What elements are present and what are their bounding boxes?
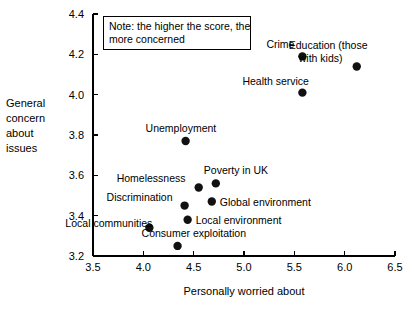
data-point: Poverty in UK xyxy=(204,164,268,187)
note-line: more concerned xyxy=(109,33,185,45)
note-line: Note: the higher the score, the xyxy=(109,20,250,32)
data-point-marker xyxy=(212,179,220,187)
data-point-marker xyxy=(195,183,203,191)
data-point: Local communities xyxy=(65,217,153,232)
data-point-marker xyxy=(181,137,189,145)
data-point: Education (thosewith kids) xyxy=(289,39,368,70)
data-point: Discrimination xyxy=(107,191,189,210)
data-point: Health service xyxy=(242,75,309,97)
y-axis-title: Generalconcernaboutissues xyxy=(6,97,45,154)
y-tick-label: 3.8 xyxy=(69,129,84,141)
data-point-label: Discrimination xyxy=(107,191,173,203)
x-axis-title: Personally worried about xyxy=(183,285,304,297)
data-point-marker xyxy=(208,197,216,205)
data-point-marker xyxy=(353,62,361,70)
data-point-label: Global environment xyxy=(220,196,311,208)
data-points: CrimeEducation (thosewith kids)Health se… xyxy=(65,38,367,250)
x-tick-label: 5.0 xyxy=(236,261,251,273)
y-tick-label: 3.2 xyxy=(69,250,84,262)
data-point: Homelessness xyxy=(117,172,203,191)
y-tick-label: 4.2 xyxy=(69,48,84,60)
data-point-label: Consumer exploitation xyxy=(142,227,247,239)
data-point-label: Unemployment xyxy=(146,122,217,134)
data-point: Unemployment xyxy=(146,122,217,145)
data-point-label: Poverty in UK xyxy=(204,164,268,176)
data-point-label: Homelessness xyxy=(117,172,186,184)
x-tick-label: 5.5 xyxy=(287,261,302,273)
plot-area: 3.54.04.55.05.56.06.53.23.43.63.84.04.24… xyxy=(0,0,414,309)
scatter-chart: 3.54.04.55.05.56.06.53.23.43.63.84.04.24… xyxy=(0,0,414,309)
y-axis-title-line: issues xyxy=(6,142,38,154)
x-tick-label: 6.0 xyxy=(337,261,352,273)
x-tick-label: 4.5 xyxy=(186,261,201,273)
x-tick-label: 4.0 xyxy=(136,261,151,273)
note-annotation: Note: the higher the score, themore conc… xyxy=(103,16,250,49)
data-point: Consumer exploitation xyxy=(142,227,247,250)
y-axis-title-line: concern xyxy=(6,112,45,124)
data-point-label: Local communities xyxy=(65,217,152,229)
data-point-marker xyxy=(183,216,191,224)
data-point-marker xyxy=(180,201,188,209)
x-axis-title-text: Personally worried about xyxy=(183,285,304,297)
data-point-label: Education (those xyxy=(289,39,368,51)
x-tick-label: 6.5 xyxy=(387,261,402,273)
data-point-label: Health service xyxy=(242,75,309,87)
y-tick-label: 4.0 xyxy=(69,89,84,101)
y-tick-label: 3.6 xyxy=(69,169,84,181)
data-point-label-line2: with kids) xyxy=(298,52,343,64)
data-point: Local environment xyxy=(183,214,281,226)
y-axis-title-line: about xyxy=(6,127,34,139)
y-tick-label: 4.4 xyxy=(69,8,84,20)
data-point-marker xyxy=(173,242,181,250)
data-point-marker xyxy=(298,88,306,96)
y-axis-title-line: General xyxy=(6,97,45,109)
x-tick-label: 3.5 xyxy=(85,261,100,273)
data-point: Global environment xyxy=(208,196,311,208)
data-point-label: Local environment xyxy=(196,214,282,226)
